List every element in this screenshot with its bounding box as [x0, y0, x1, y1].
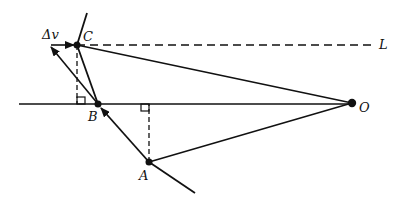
velocity-arrow: [51, 47, 98, 104]
right-angle-marker-c: [77, 97, 85, 104]
label-b: B: [87, 109, 98, 124]
arrow-a-to-b: [101, 108, 149, 162]
segment-a-extension: [149, 162, 195, 193]
label-o: O: [359, 100, 370, 115]
point-a: [146, 159, 153, 166]
label-c: C: [83, 29, 93, 44]
segment-co: [77, 45, 352, 103]
right-angle-marker-a: [141, 104, 149, 111]
point-o: [348, 99, 356, 107]
point-c: [74, 42, 81, 49]
label-a: A: [138, 168, 148, 183]
label-l: L: [378, 37, 388, 52]
label-delta-v: Δv: [41, 27, 59, 42]
segment-bc: [77, 45, 98, 104]
orbit-diagram: Δv C B A O L: [0, 0, 401, 206]
point-b: [95, 101, 102, 108]
segment-ao: [149, 103, 352, 162]
